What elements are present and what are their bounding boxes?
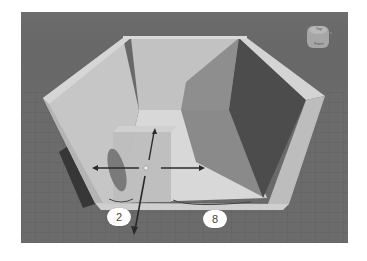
scene-canvas[interactable] xyxy=(21,12,348,243)
back-wall-rim xyxy=(123,36,247,39)
dimension-badge-right[interactable]: 8 xyxy=(203,210,227,228)
view-cube-front-label: Front xyxy=(304,41,334,46)
view-cube-top-label: Top xyxy=(304,26,334,31)
3d-viewport[interactable]: Top Front 2 8 xyxy=(21,12,348,243)
view-cube-icon[interactable]: Top Front xyxy=(304,22,334,52)
dimension-badge-left[interactable]: 2 xyxy=(107,208,131,226)
selected-block-top xyxy=(113,126,177,132)
